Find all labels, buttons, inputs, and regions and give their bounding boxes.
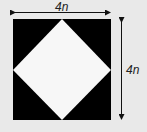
width-label: 4n	[55, 0, 68, 14]
height-label: 4n	[126, 63, 139, 77]
diagram-canvas	[0, 0, 147, 132]
width-label-text: 4n	[55, 0, 68, 14]
height-label-text: 4n	[126, 63, 139, 77]
